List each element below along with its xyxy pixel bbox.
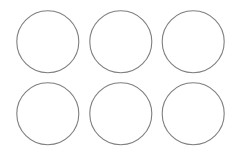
background: [0, 0, 237, 155]
circle-grid-diagram: [0, 0, 237, 155]
